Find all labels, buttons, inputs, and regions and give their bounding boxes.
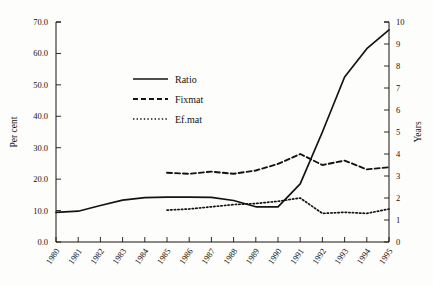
x-tick-label: 1989 <box>243 246 261 266</box>
right-tick-label: 3 <box>396 171 400 181</box>
line-chart: 0.010.020.030.040.050.060.070.0 01234567… <box>0 0 433 285</box>
right-tick-label: 9 <box>396 39 400 49</box>
x-tick-label: 1990 <box>266 246 284 266</box>
left-axis-tick-marks <box>56 22 61 242</box>
x-tick-label: 1984 <box>132 246 150 266</box>
right-tick-label: 2 <box>396 193 400 203</box>
x-tick-label: 1980 <box>44 246 62 266</box>
right-tick-label: 6 <box>396 105 400 115</box>
right-tick-label: 10 <box>396 17 405 27</box>
left-tick-label: 50.0 <box>33 80 48 90</box>
axis-titles: Per centYears <box>9 116 423 147</box>
right-axis-tick-labels: 012345678910 <box>396 17 405 247</box>
x-tick-label: 1993 <box>332 246 350 266</box>
legend-label-fixmat: Fixmat <box>175 94 204 105</box>
x-tick-label: 1983 <box>110 246 128 266</box>
right-tick-label: 5 <box>396 127 400 137</box>
legend-label-ratio: Ratio <box>175 74 197 85</box>
x-tick-label: 1995 <box>377 246 395 266</box>
right-tick-label: 0 <box>396 237 400 247</box>
right-tick-label: 8 <box>396 61 400 71</box>
x-tick-label: 1992 <box>310 246 328 266</box>
right-tick-label: 7 <box>396 83 400 93</box>
legend-label-efmat: Ef.mat <box>175 114 202 125</box>
left-tick-label: 70.0 <box>33 17 48 27</box>
right-tick-label: 1 <box>396 215 400 225</box>
x-tick-label: 1994 <box>354 246 372 266</box>
x-tick-label: 1981 <box>66 246 84 266</box>
x-axis-tick-labels: 1980198119821983198419851986198719881989… <box>44 246 395 266</box>
right-y-axis-title: Years <box>413 121 423 143</box>
x-tick-label: 1991 <box>288 246 306 266</box>
x-tick-label: 1987 <box>199 246 217 266</box>
x-axis-tick-marks <box>56 237 389 242</box>
left-tick-label: 10.0 <box>33 206 48 216</box>
axis-frame <box>56 22 389 242</box>
x-tick-label: 1982 <box>88 246 106 266</box>
y-axis-title: Per cent <box>9 116 19 147</box>
series-line-ratio <box>56 30 389 213</box>
left-tick-label: 60.0 <box>33 48 48 58</box>
x-tick-label: 1988 <box>221 246 239 266</box>
left-axis-tick-labels: 0.010.020.030.040.050.060.070.0 <box>33 17 48 247</box>
x-tick-label: 1986 <box>177 246 195 266</box>
left-tick-label: 40.0 <box>33 111 48 121</box>
legend: RatioFixmatEf.mat <box>133 74 204 125</box>
left-tick-label: 30.0 <box>33 143 48 153</box>
series-group <box>56 30 389 214</box>
left-tick-label: 0.0 <box>37 237 48 247</box>
chart-container: 0.010.020.030.040.050.060.070.0 01234567… <box>0 0 433 285</box>
right-tick-label: 4 <box>396 149 401 159</box>
series-line-fixmat <box>167 154 389 174</box>
x-tick-label: 1985 <box>155 246 173 266</box>
left-tick-label: 20.0 <box>33 174 48 184</box>
